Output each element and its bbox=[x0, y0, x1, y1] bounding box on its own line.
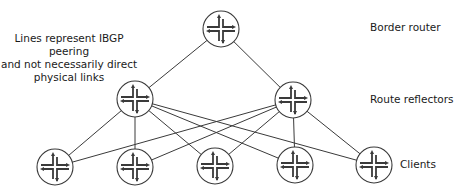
router-icon-c3 bbox=[197, 148, 233, 184]
label-border-router: Border router bbox=[370, 21, 441, 33]
note-line-3: physical links bbox=[0, 71, 138, 84]
note-line-2: and not necessarily direct bbox=[0, 58, 138, 71]
peering-note: Lines represent IBGP peering and not nec… bbox=[0, 32, 138, 84]
router-icon-c5 bbox=[356, 147, 392, 183]
router-icon-c1 bbox=[37, 149, 73, 185]
router-icon-c2 bbox=[117, 149, 153, 185]
router-icon-c4 bbox=[277, 147, 313, 183]
router-icon-rr1 bbox=[117, 81, 153, 117]
label-route-reflectors: Route reflectors bbox=[370, 93, 454, 105]
note-line-1: Lines represent IBGP peering bbox=[0, 32, 138, 58]
router-icon-rr2 bbox=[275, 82, 311, 118]
router-icon-border bbox=[203, 11, 239, 47]
label-clients: Clients bbox=[400, 158, 436, 170]
